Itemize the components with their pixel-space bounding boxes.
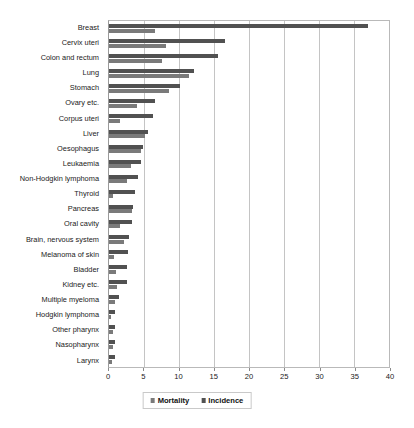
bar-incidence	[109, 280, 127, 284]
legend-label: Incidence	[208, 396, 243, 405]
bar-mortality	[109, 119, 120, 123]
category-label: Pancreas	[0, 202, 104, 217]
x-axis: 0510152025303540	[108, 368, 390, 386]
bar-incidence	[109, 24, 368, 28]
legend-swatch-icon	[151, 398, 155, 403]
x-tick-label: 40	[386, 372, 394, 381]
bar-row	[109, 66, 389, 81]
x-tick	[249, 368, 250, 371]
category-label: Nasopharynx	[0, 338, 104, 353]
x-tick	[355, 368, 356, 371]
bar-incidence	[109, 54, 218, 58]
bar-row	[109, 141, 389, 156]
bar-row	[109, 51, 389, 66]
bar-mortality	[109, 149, 141, 153]
bar-row	[109, 247, 389, 262]
chart-legend: MortalityIncidence	[143, 392, 252, 409]
category-label: Hodgkin lymphoma	[0, 307, 104, 322]
bar-row	[109, 337, 389, 352]
x-tick-label: 5	[141, 372, 145, 381]
bar-incidence	[109, 325, 115, 329]
bar-mortality	[109, 330, 113, 334]
bar-incidence	[109, 250, 128, 254]
category-label: Leukaemia	[0, 156, 104, 171]
bar-row	[109, 156, 389, 171]
category-label: Corpus uteri	[0, 111, 104, 126]
bar-mortality	[109, 104, 137, 108]
bar-rows	[109, 21, 389, 367]
category-axis-labels: BreastCervix uteriColon and rectumLungSt…	[0, 20, 104, 368]
x-tick-label: 0	[106, 372, 110, 381]
x-tick-label: 15	[210, 372, 218, 381]
legend-item-mortality[interactable]: Mortality	[151, 396, 190, 405]
category-label: Non-Hodgkin lymphoma	[0, 171, 104, 186]
bar-incidence	[109, 160, 141, 164]
bar-row	[109, 171, 389, 186]
bar-row	[109, 322, 389, 337]
category-label: Other pharynx	[0, 323, 104, 338]
category-label: Ovary etc.	[0, 96, 104, 111]
x-tick	[179, 368, 180, 371]
bar-row	[109, 277, 389, 292]
category-label: Melanoma of skin	[0, 247, 104, 262]
bar-incidence	[109, 39, 225, 43]
bar-mortality	[109, 164, 131, 168]
category-label: Multiple myeloma	[0, 292, 104, 307]
category-label: Breast	[0, 20, 104, 35]
bar-row	[109, 217, 389, 232]
bar-row	[109, 21, 389, 36]
x-tick	[143, 368, 144, 371]
bar-row	[109, 262, 389, 277]
bar-incidence	[109, 340, 115, 344]
x-tick	[390, 368, 391, 371]
bar-mortality	[109, 179, 127, 183]
category-label: Oral cavity	[0, 217, 104, 232]
bar-row	[109, 202, 389, 217]
category-label: Cervix uteri	[0, 35, 104, 50]
bar-row	[109, 352, 389, 367]
bar-row	[109, 96, 389, 111]
x-tick-label: 30	[315, 372, 323, 381]
x-tick-label: 25	[280, 372, 288, 381]
x-tick	[320, 368, 321, 371]
legend-item-incidence[interactable]: Incidence	[201, 396, 243, 405]
bar-mortality	[109, 255, 114, 259]
bar-mortality	[109, 209, 132, 213]
bar-row	[109, 126, 389, 141]
category-label: Stomach	[0, 81, 104, 96]
category-label: Lung	[0, 65, 104, 80]
bar-mortality	[109, 360, 112, 364]
bar-incidence	[109, 69, 194, 73]
bar-incidence	[109, 310, 115, 314]
bar-row	[109, 232, 389, 247]
bar-mortality	[109, 74, 189, 78]
bar-incidence	[109, 265, 127, 269]
category-label: Bladder	[0, 262, 104, 277]
bar-mortality	[109, 300, 115, 304]
bar-row	[109, 111, 389, 126]
bar-mortality	[109, 315, 111, 319]
bar-incidence	[109, 114, 153, 118]
bar-mortality	[109, 194, 113, 198]
bar-incidence	[109, 145, 143, 149]
bar-mortality	[109, 224, 120, 228]
bar-mortality	[109, 59, 162, 63]
bar-mortality	[109, 285, 117, 289]
x-tick	[108, 368, 109, 371]
bar-incidence	[109, 130, 148, 134]
bar-row	[109, 187, 389, 202]
legend-label: Mortality	[158, 396, 190, 405]
bar-mortality	[109, 134, 145, 138]
bar-mortality	[109, 29, 155, 33]
legend-swatch-icon	[201, 398, 205, 403]
bar-incidence	[109, 355, 115, 359]
x-tick-label: 35	[351, 372, 359, 381]
bar-mortality	[109, 89, 169, 93]
bar-incidence	[109, 295, 119, 299]
bar-row	[109, 81, 389, 96]
bar-row	[109, 292, 389, 307]
bar-mortality	[109, 44, 166, 48]
bar-incidence	[109, 205, 133, 209]
bar-row	[109, 36, 389, 51]
bar-incidence	[109, 175, 138, 179]
